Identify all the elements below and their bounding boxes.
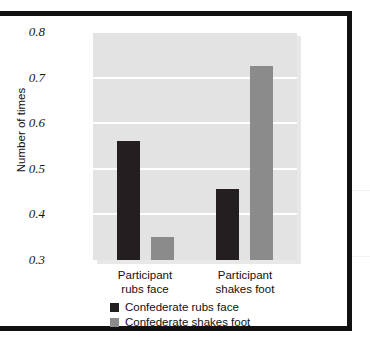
bar-face — [250, 66, 273, 260]
bar — [151, 237, 174, 260]
x-axis-tick-label: Participantshakes foot — [185, 269, 305, 296]
plot-inner — [93, 32, 297, 260]
bar — [117, 141, 140, 260]
legend-item: Confederate shakes foot — [110, 315, 250, 329]
y-axis-tick-label: 0.3 — [0, 252, 45, 268]
legend-item-label: Confederate shakes foot — [125, 316, 250, 328]
gridline — [93, 32, 297, 33]
chart-legend: Confederate rubs face Confederate shakes… — [110, 300, 250, 330]
x-axis-tick-line: shakes foot — [185, 283, 305, 297]
y-axis-tick-label: 0.6 — [0, 115, 45, 131]
bar-chart: Number of times 0.30.40.50.60.70.8 Parti… — [0, 16, 347, 326]
x-axis-tick-line: Participant — [185, 269, 305, 283]
legend-item: Confederate rubs face — [110, 300, 250, 314]
legend-swatch-icon — [110, 303, 119, 312]
bar-face — [151, 237, 174, 260]
y-axis-tick-label: 0.5 — [0, 161, 45, 177]
figure-border-right — [347, 11, 352, 331]
bar — [250, 66, 273, 260]
legend-swatch-icon — [110, 318, 119, 327]
bar-face — [117, 141, 140, 260]
bar-face — [216, 189, 239, 260]
y-axis-tick-label: 0.7 — [0, 70, 45, 86]
figure-root: Number of times 0.30.40.50.60.70.8 Parti… — [0, 0, 370, 351]
plot-area — [93, 32, 297, 260]
y-axis-tick-label: 0.4 — [0, 206, 45, 222]
legend-item-label: Confederate rubs face — [125, 301, 239, 313]
bar — [216, 189, 239, 260]
y-axis-tick-label: 0.8 — [0, 24, 45, 40]
